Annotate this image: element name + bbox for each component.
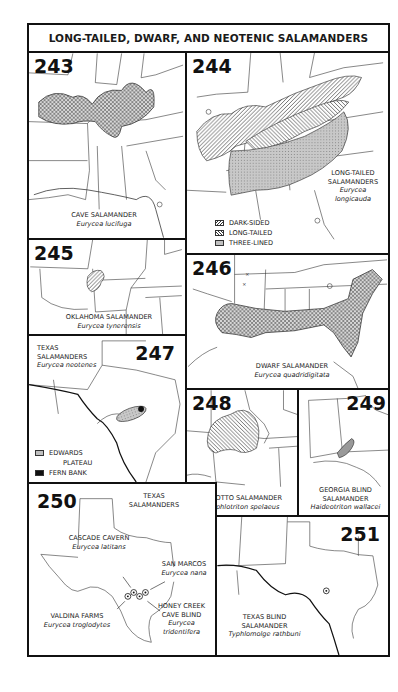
svg-text:×: ×: [242, 281, 246, 287]
common-name-line2: SALAMANDER: [299, 495, 390, 504]
common-name-line1: LONG-TAILED: [317, 169, 389, 178]
map-legend: DARK-SIDED LONG-TAILED THREE-LINED: [215, 218, 273, 248]
map-panel-249: 249 GEORGIA BLIND SALAMANDER Haideotrito…: [297, 388, 390, 517]
scientific-name-line2: longicauda: [317, 195, 389, 204]
map-caption: LONG-TAILED SALAMANDERS Eurycea longicau…: [317, 169, 389, 203]
location-label-cascade-cavern: CASCADE CAVERN Eurycea latitans: [59, 534, 139, 551]
location-label-valdina-farms: VALDINA FARMS Eurycea troglodytes: [37, 612, 117, 629]
legend-item-long-tailed: LONG-TAILED: [215, 228, 273, 238]
common-name: DWARF SALAMANDER: [227, 362, 357, 371]
map-number: 244: [192, 57, 232, 76]
common-name-line2: SALAMANDER: [222, 622, 307, 631]
common-name: OKLAHOMA SALAMANDER: [44, 313, 174, 322]
map-panel-246: ×× 246 DWARF SALAMANDER Eurycea quadridi…: [185, 253, 390, 390]
long-tailed-swatch-icon: [215, 230, 224, 236]
title-line1: TEXAS: [119, 492, 189, 501]
common-name-line2: SALAMANDERS: [37, 353, 96, 362]
scientific-name-line2: tridentifera: [149, 628, 214, 637]
svg-text:×: ×: [245, 271, 249, 277]
common-name-line1: HONEY CREEK: [149, 602, 214, 611]
common-name: CASCADE CAVERN: [59, 534, 139, 543]
scientific-name: Typhlomolge rathbuni: [222, 630, 307, 639]
common-name: SAN MARCOS: [154, 560, 214, 569]
map-legend: EDWARDS PLATEAU FERN BANK: [35, 448, 92, 478]
scientific-name-line1: Eurycea: [317, 186, 389, 195]
legend-label: THREE-LINED: [229, 239, 273, 247]
map-caption: OKLAHOMA SALAMANDER Eurycea tynerensis: [44, 313, 174, 330]
map-panel-244: 244 LONG-TAILED SALAMANDERS Eurycea long…: [185, 51, 390, 255]
map-panel-247: 247 TEXAS SALAMANDERS Eurycea neotenes E…: [27, 334, 187, 484]
scientific-name: Haideotriton wallacei: [299, 503, 390, 512]
scientific-name: Eurycea latitans: [59, 543, 139, 552]
location-label-honey-creek: HONEY CREEK CAVE BLIND Eurycea tridentif…: [149, 602, 214, 636]
legend-label: DARK-SIDED: [229, 219, 270, 227]
legend-label: FERN BANK: [49, 469, 87, 477]
edwards-plateau-swatch-icon: [35, 450, 44, 456]
legend-item-edwards-plateau: EDWARDS: [35, 448, 92, 458]
common-name-line1: TEXAS: [37, 344, 96, 353]
legend-item-dark-sided: DARK-SIDED: [215, 218, 273, 228]
scientific-name: Eurycea lucifuga: [49, 220, 159, 229]
scientific-name: Eurycea tynerensis: [44, 322, 174, 331]
common-name-line2: SALAMANDERS: [317, 178, 389, 187]
map-panel-243: 243 CAVE SALAMANDER Eurycea lucifuga: [27, 51, 187, 240]
legend-label: LONG-TAILED: [229, 229, 272, 237]
map-number: 246: [192, 259, 232, 278]
fern-bank-swatch-icon: [35, 470, 44, 476]
common-name-line1: TEXAS BLIND: [222, 613, 307, 622]
common-name: CAVE SALAMANDER: [49, 211, 159, 220]
common-name: VALDINA FARMS: [37, 612, 117, 621]
map-panel-250: 250 TEXAS SALAMANDERS CASCADE CAVERN Eur…: [27, 482, 217, 657]
legend-item-edwards-plateau-line2: PLATEAU: [35, 458, 92, 468]
title-line2: SALAMANDERS: [119, 501, 189, 510]
map-panel-251: 251 TEXAS BLIND SALAMANDER Typhlomolge r…: [215, 515, 390, 657]
map-caption: CAVE SALAMANDER Eurycea lucifuga: [49, 211, 159, 228]
map-panel-245: 245 OKLAHOMA SALAMANDER Eurycea tynerens…: [27, 238, 187, 336]
map-number: 249: [346, 394, 386, 413]
location-label-san-marcos: SAN MARCOS Eurycea nana: [154, 560, 214, 577]
legend-item-fern-bank: FERN BANK: [35, 468, 92, 478]
map-caption: TEXAS SALAMANDERS Eurycea neotenes: [37, 344, 96, 370]
map-title: TEXAS SALAMANDERS: [119, 492, 189, 509]
map-caption: GEORGIA BLIND SALAMANDER Haideotriton wa…: [299, 486, 390, 512]
map-number: 245: [34, 244, 74, 263]
map-number: 247: [135, 344, 175, 363]
map-number: 250: [37, 492, 77, 511]
common-name-line2: CAVE BLIND: [149, 611, 214, 620]
map-number: 243: [34, 57, 74, 76]
map-caption: DWARF SALAMANDER Eurycea quadridigitata: [227, 362, 357, 379]
scientific-name: Eurycea troglodytes: [37, 621, 117, 630]
scientific-name: Eurycea neotenes: [37, 361, 96, 370]
scientific-name: Eurycea quadridigitata: [227, 371, 357, 380]
three-lined-swatch-icon: [215, 240, 224, 246]
scientific-name-line1: Eurycea: [149, 619, 214, 628]
map-caption: TEXAS BLIND SALAMANDER Typhlomolge rathb…: [222, 613, 307, 639]
page-title: LONG-TAILED, DWARF, AND NEOTENIC SALAMAN…: [27, 23, 390, 53]
common-name-line1: GEORGIA BLIND: [299, 486, 390, 495]
legend-label: EDWARDS: [49, 449, 83, 457]
map-number: 248: [192, 394, 232, 413]
dark-sided-swatch-icon: [215, 220, 224, 226]
legend-label: PLATEAU: [63, 459, 92, 467]
map-number: 251: [340, 525, 380, 544]
scientific-name: Eurycea nana: [154, 569, 214, 578]
legend-item-three-lined: THREE-LINED: [215, 238, 273, 248]
